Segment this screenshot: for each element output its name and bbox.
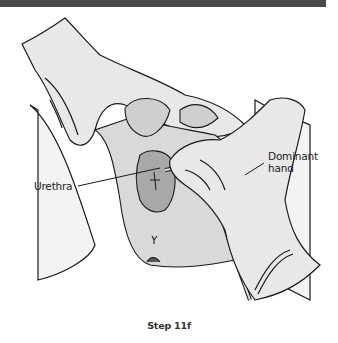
dominant-hand-label: Dominant hand: [268, 150, 328, 174]
urethra-label: Urethra: [34, 180, 72, 192]
figure-caption: Step 11f: [0, 320, 338, 331]
dominant-hand-label-line1: Dominant: [268, 150, 328, 162]
dominant-hand-label-line2: hand: [268, 162, 328, 174]
